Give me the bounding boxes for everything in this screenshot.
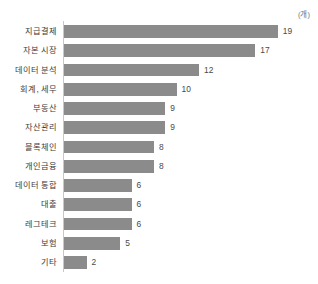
bar [64,121,165,134]
category-label: 데이터 분석 [0,61,57,80]
bar-track: 10 [64,80,318,99]
bar-track: 9 [64,99,318,118]
bar-row: 데이터 통합6 [0,176,318,195]
bar-row: 자산관리9 [0,118,318,137]
bar-track: 6 [64,195,318,214]
bar-value-label: 2 [92,253,97,272]
bar-row: 회계, 세무10 [0,80,318,99]
bar [64,64,199,77]
bar-track: 6 [64,176,318,195]
category-label: 블록체인 [0,138,57,157]
category-label: 자본 시장 [0,41,57,60]
bar-value-label: 19 [283,22,292,41]
bar-row: 자본 시장17 [0,41,318,60]
bar-value-label: 9 [170,99,175,118]
bar-row: 데이터 분석12 [0,61,318,80]
category-label: 데이터 통합 [0,176,57,195]
bar-value-label: 6 [137,195,142,214]
bar [64,160,154,173]
category-label: 보험 [0,234,57,253]
bar-value-label: 6 [137,215,142,234]
bar-value-label: 10 [182,80,191,99]
unit-label: (개) [298,11,310,19]
bar-value-label: 9 [170,118,175,137]
bar-value-label: 8 [159,157,164,176]
bar [64,25,278,38]
bar-track: 9 [64,118,318,137]
category-label: 대출 [0,195,57,214]
bar [64,218,132,231]
bar-row: 블록체인8 [0,138,318,157]
bar [64,179,132,192]
bar-row: 대출6 [0,195,318,214]
bar-track: 2 [64,253,318,272]
bar-value-label: 6 [137,176,142,195]
bar [64,141,154,154]
bar [64,44,255,57]
bar-track: 12 [64,61,318,80]
bar [64,198,132,211]
bar [64,83,177,96]
bar [64,102,165,115]
category-label: 자산관리 [0,118,57,137]
bar-row: 개인금융8 [0,157,318,176]
bar-track: 5 [64,234,318,253]
bar-row: 기타2 [0,253,318,272]
bar-chart: (개) 지급결제19자본 시장17데이터 분석12회계, 세무10부동산9자산관… [0,0,318,284]
category-label: 회계, 세무 [0,80,57,99]
bar-row: 부동산9 [0,99,318,118]
bar-track: 8 [64,157,318,176]
category-label: 개인금융 [0,157,57,176]
bar-value-label: 5 [125,234,130,253]
bar-track: 6 [64,215,318,234]
category-label: 기타 [0,253,57,272]
bar [64,237,120,250]
category-label: 지급결제 [0,22,57,41]
plot-area: 지급결제19자본 시장17데이터 분석12회계, 세무10부동산9자산관리9블록… [0,21,318,273]
bar-track: 17 [64,41,318,60]
bar [64,256,87,269]
bar-row: 레그테크6 [0,215,318,234]
category-label: 레그테크 [0,215,57,234]
bar-value-label: 17 [260,41,269,60]
bar-track: 8 [64,138,318,157]
bar-value-label: 12 [204,61,213,80]
bar-track: 19 [64,22,318,41]
bar-row: 지급결제19 [0,22,318,41]
bar-row: 보험5 [0,234,318,253]
bar-value-label: 8 [159,138,164,157]
category-label: 부동산 [0,99,57,118]
